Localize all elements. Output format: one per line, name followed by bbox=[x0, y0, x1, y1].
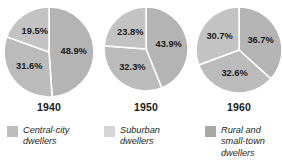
legend-swatch-icon-rural-small-town-dwellers bbox=[205, 126, 216, 137]
slice-label-1960-2: 36.7% bbox=[247, 35, 274, 45]
year-label-1950: 1950 bbox=[99, 101, 193, 113]
legend-item-suburban-dwellers: Suburban dwellers bbox=[104, 125, 188, 148]
slice-label-1950-0: 23.8% bbox=[117, 27, 144, 37]
pie-charts-row: 48.9%31.6%19.5%194043.9%32.3%23.8%195036… bbox=[0, 0, 282, 122]
legend-swatch-icon-central-city-dwellers bbox=[7, 126, 18, 137]
chart-legend: Central-city dwellersSuburban dwellersRu… bbox=[0, 122, 282, 166]
slice-label-1960-1: 32.6% bbox=[221, 68, 248, 78]
pie-chart-figure: 48.9%31.6%19.5%194043.9%32.3%23.8%195036… bbox=[0, 0, 282, 166]
year-label-1960: 1960 bbox=[192, 101, 282, 113]
pie-chart-1950: 43.9%32.3%23.8%1950 bbox=[99, 0, 193, 122]
pie-graphic-1960: 36.7%32.6%30.7% bbox=[195, 6, 282, 94]
legend-item-rural-small-town-dwellers: Rural and small-town dwellers bbox=[205, 125, 282, 159]
slice-label-1940-0: 19.5% bbox=[22, 26, 49, 36]
pie-chart-1940: 48.9%31.6%19.5%1940 bbox=[2, 0, 96, 122]
legend-label-rural-small-town-dwellers: Rural and small-town dwellers bbox=[221, 125, 265, 159]
pie-chart-1960: 36.7%32.6%30.7%1960 bbox=[192, 0, 282, 122]
legend-swatch-icon-suburban-dwellers bbox=[104, 126, 115, 137]
slice-label-1940-1: 31.6% bbox=[16, 61, 43, 71]
slice-label-1940-2: 48.9% bbox=[61, 46, 88, 56]
pie-graphic-1940: 48.9%31.6%19.5% bbox=[3, 6, 95, 98]
pie-graphic-1950: 43.9%32.3%23.8% bbox=[103, 6, 189, 92]
legend-label-suburban-dwellers: Suburban dwellers bbox=[120, 125, 160, 148]
slice-label-1960-0: 30.7% bbox=[206, 31, 233, 41]
legend-label-central-city-dwellers: Central-city dwellers bbox=[23, 125, 69, 148]
year-label-1940: 1940 bbox=[2, 101, 96, 113]
slice-label-1950-2: 43.9% bbox=[156, 39, 183, 49]
legend-item-central-city-dwellers: Central-city dwellers bbox=[7, 125, 99, 148]
slice-label-1950-1: 32.3% bbox=[119, 62, 146, 72]
